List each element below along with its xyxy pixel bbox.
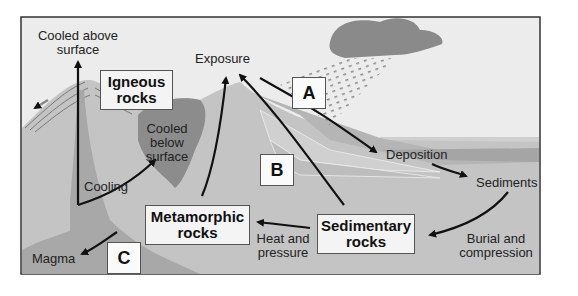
label-magma: Magma bbox=[32, 252, 75, 266]
label-sediments: Sediments bbox=[476, 176, 537, 190]
box-line: Igneous bbox=[108, 74, 166, 90]
igneous-rocks-box: Igneous rocks bbox=[100, 70, 173, 110]
box-line: rocks bbox=[177, 225, 217, 241]
label-line: Cooled above bbox=[24, 29, 132, 43]
label-deposition: Deposition bbox=[386, 148, 447, 162]
box-line: rocks bbox=[346, 234, 386, 250]
letter-b-box: B bbox=[260, 154, 294, 186]
metamorphic-rocks-box: Metamorphic rocks bbox=[145, 205, 250, 245]
label-cooled-above: Cooled above surface bbox=[24, 29, 132, 57]
label-line: surface bbox=[24, 43, 132, 57]
label-line: surface bbox=[140, 150, 194, 164]
box-line: rocks bbox=[116, 90, 156, 106]
sedimentary-rocks-box: Sedimentary rocks bbox=[317, 214, 415, 254]
box-line: Sedimentary bbox=[321, 218, 411, 234]
label-exposure: Exposure bbox=[195, 52, 250, 66]
label-line: pressure bbox=[251, 246, 315, 260]
label-line: Cooled bbox=[140, 122, 194, 136]
label-line: compression bbox=[455, 246, 537, 260]
label-line: below bbox=[140, 136, 194, 150]
label-cooled-below: Cooled below surface bbox=[140, 122, 194, 164]
label-heat-pressure: Heat and pressure bbox=[251, 232, 315, 260]
label-cooling: Cooling bbox=[84, 180, 128, 194]
rock-cycle-diagram: Cooled above surface Exposure Cooled bel… bbox=[0, 0, 578, 296]
letter-a-box: A bbox=[292, 77, 326, 109]
label-line: Burial and bbox=[455, 232, 537, 246]
label-burial-compression: Burial and compression bbox=[455, 232, 537, 260]
letter-c-box: C bbox=[107, 242, 141, 274]
box-line: Metamorphic bbox=[151, 209, 244, 225]
label-line: Heat and bbox=[251, 232, 315, 246]
